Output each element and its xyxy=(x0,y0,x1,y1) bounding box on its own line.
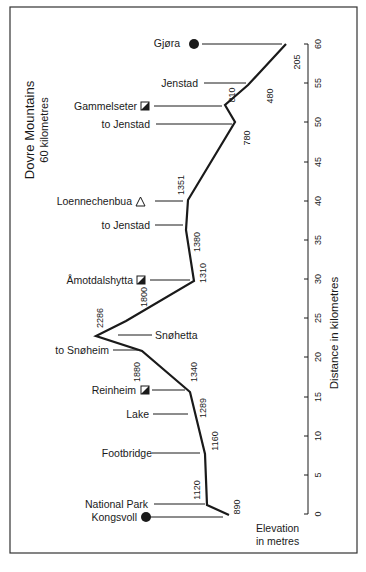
tick-30: 30 xyxy=(313,274,323,284)
town-circle-icon xyxy=(141,512,151,522)
elev-1120: 1120 xyxy=(192,480,202,499)
elev-1289: 1289 xyxy=(198,398,208,418)
elev-480: 480 xyxy=(265,88,275,103)
waypoint-gjora: Gjøra xyxy=(154,37,180,49)
hut-icon xyxy=(141,386,149,394)
tick-60: 60 xyxy=(313,39,323,49)
tick-55: 55 xyxy=(313,78,323,88)
waypoint-to-snoheim: to Snøheim xyxy=(55,344,109,356)
tick-40: 40 xyxy=(313,196,323,206)
hut-icon xyxy=(137,276,145,284)
waypoint-to-jenstad-south: to Jenstad xyxy=(102,219,151,231)
elevation-label-line2: in metres xyxy=(256,535,299,547)
waypoint-lake: Lake xyxy=(126,408,149,420)
waypoint-gammelseter: Gammelseter xyxy=(74,100,138,112)
waypoint-national-park: National Park xyxy=(85,498,149,510)
tick-35: 35 xyxy=(313,235,323,245)
elev-1160: 1160 xyxy=(210,431,220,450)
chart-title: Dovre Mountains xyxy=(22,80,37,179)
tick-20: 20 xyxy=(313,352,323,362)
waypoint-kongsvoll: Kongsvoll xyxy=(91,511,137,523)
elev-2286: 2286 xyxy=(95,308,105,328)
elev-1880: 1880 xyxy=(132,362,142,382)
waypoint-jenstad: Jenstad xyxy=(161,77,198,89)
elev-1380: 1380 xyxy=(192,232,202,252)
tick-0: 0 xyxy=(313,511,323,516)
distance-axis-title: Distance in kilometres xyxy=(328,277,340,390)
elev-810: 810 xyxy=(227,87,237,102)
elev-205: 205 xyxy=(292,54,302,69)
elev-780: 780 xyxy=(242,130,252,145)
waypoint-snohetta: Snøhetta xyxy=(155,329,198,341)
elev-1800: 1800 xyxy=(139,287,149,307)
chart-subtitle: 60 kilometres xyxy=(38,97,50,163)
hut-icon xyxy=(141,102,149,110)
elev-1340: 1340 xyxy=(189,362,199,382)
town-circle-icon xyxy=(189,39,199,49)
waypoint-amotdalshytta: Åmotdalshytta xyxy=(66,274,133,286)
elevation-profile-chart: Dovre Mountains 60 kilometres 60 55 50 4… xyxy=(0,0,366,572)
tick-45: 45 xyxy=(313,157,323,167)
elevation-label-line1: Elevation xyxy=(256,522,299,534)
waypoint-to-jenstad-north: to Jenstad xyxy=(102,118,151,130)
tick-15: 15 xyxy=(313,392,323,402)
distance-axis: 60 55 50 45 40 35 30 25 20 15 10 5 0 Dis… xyxy=(304,39,340,517)
tick-50: 50 xyxy=(313,117,323,127)
elev-1351: 1351 xyxy=(176,175,186,195)
elev-890: 890 xyxy=(232,499,242,514)
tick-10: 10 xyxy=(313,431,323,441)
waypoint-reinheim: Reinheim xyxy=(92,384,137,396)
waypoint-loennechenbua: Loennechenbua xyxy=(57,195,132,207)
chart-title-group: Dovre Mountains 60 kilometres xyxy=(22,80,50,179)
waypoint-footbridge: Footbridge xyxy=(102,447,152,459)
tick-25: 25 xyxy=(313,313,323,323)
tick-5: 5 xyxy=(313,472,323,477)
elev-1310: 1310 xyxy=(198,263,208,283)
open-shelter-triangle-icon xyxy=(136,197,145,206)
